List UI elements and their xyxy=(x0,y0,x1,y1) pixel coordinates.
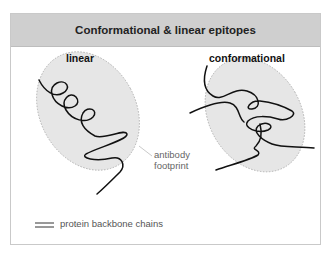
legend: protein backbone chains xyxy=(60,218,163,229)
annotation-line-1: antibody xyxy=(154,149,190,160)
epitope-illustration xyxy=(0,0,332,255)
double-line-icon xyxy=(35,223,54,227)
linear-panel-label: linear xyxy=(66,52,94,64)
conformational-panel-label: conformational xyxy=(209,52,285,64)
annotation-line-2: footprint xyxy=(154,160,190,171)
legend-label: protein backbone chains xyxy=(60,218,163,229)
footprint-leader-line xyxy=(139,146,152,156)
antibody-footprint-annotation: antibody footprint xyxy=(154,149,190,171)
